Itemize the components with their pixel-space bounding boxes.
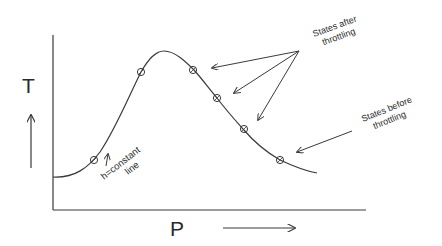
state-point-6 <box>276 156 283 163</box>
axes <box>53 35 366 210</box>
after-arrow-3-icon <box>258 51 299 120</box>
state-point-1 <box>90 156 97 163</box>
after-throttling-arrows <box>212 51 299 120</box>
state-point-5 <box>240 125 247 132</box>
y-axis-label: T <box>22 74 35 97</box>
state-point-2 <box>137 68 144 75</box>
state-point-4 <box>213 94 220 101</box>
after-throttling-label: States after throttling <box>311 14 361 49</box>
curve-label: h=constant line <box>98 144 149 190</box>
throttling-diagram: T P h=constant line States after throttl… <box>0 0 442 246</box>
state-point-3 <box>189 66 196 73</box>
before-throttling-label: States before throttling <box>360 95 418 135</box>
curve-label-arrow-icon <box>106 154 108 166</box>
before-arrow-icon <box>297 131 352 152</box>
state-points <box>90 66 283 163</box>
x-axis-label: P <box>170 217 184 240</box>
